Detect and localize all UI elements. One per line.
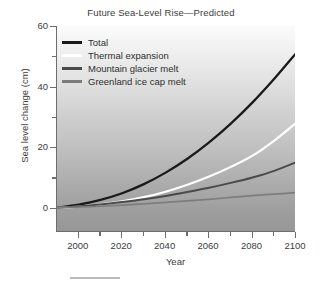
- x-tick-label: 2020: [111, 240, 132, 251]
- y-tick-minor: [52, 56, 56, 57]
- legend-swatch-mountain-glacier-melt: [62, 67, 82, 70]
- x-tick-major: [78, 232, 79, 238]
- y-tick-minor: [52, 177, 56, 178]
- footer-rule: [70, 277, 120, 279]
- y-tick-major: [50, 147, 56, 148]
- x-tick-minor: [143, 232, 144, 236]
- x-tick-major: [208, 232, 209, 238]
- x-tick-label: 2060: [198, 240, 219, 251]
- legend-swatch-greenland-ice-cap-melt: [62, 80, 82, 83]
- x-tick-label: 2080: [241, 240, 262, 251]
- y-tick-label: 0: [43, 202, 48, 213]
- legend-item-thermal-expansion: Thermal expansion: [62, 49, 186, 62]
- legend-label-mountain-glacier-melt: Mountain glacier melt: [88, 62, 178, 75]
- legend-item-total: Total: [62, 36, 186, 49]
- y-tick-label: 60: [37, 20, 48, 31]
- x-tick-minor: [99, 232, 100, 236]
- x-tick-label: 2000: [67, 240, 88, 251]
- y-tick-minor: [52, 117, 56, 118]
- legend-item-greenland-ice-cap-melt: Greenland ice cap melt: [62, 75, 186, 88]
- x-tick-label: 2040: [154, 240, 175, 251]
- legend-item-mountain-glacier-melt: Mountain glacier melt: [62, 62, 186, 75]
- y-tick-major: [50, 87, 56, 88]
- y-tick-major: [50, 208, 56, 209]
- y-tick-label: 20: [37, 141, 48, 152]
- legend-label-greenland-ice-cap-melt: Greenland ice cap melt: [88, 75, 186, 88]
- y-tick-label: 40: [37, 81, 48, 92]
- x-tick-major: [165, 232, 166, 238]
- x-tick-major: [121, 232, 122, 238]
- x-tick-minor: [186, 232, 187, 236]
- y-axis-label: Sea level change (cm): [19, 46, 30, 186]
- x-tick-major: [252, 232, 253, 238]
- legend-swatch-thermal-expansion: [62, 54, 82, 57]
- legend-label-thermal-expansion: Thermal expansion: [88, 49, 169, 62]
- x-tick-label: 2100: [284, 240, 305, 251]
- x-tick-minor: [230, 232, 231, 236]
- sea-level-rise-chart: Future Sea-Level Rise—Predicted Total Th…: [0, 0, 322, 285]
- y-tick-major: [50, 26, 56, 27]
- chart-title: Future Sea-Level Rise—Predicted: [0, 7, 322, 18]
- x-axis-label: Year: [56, 256, 295, 267]
- chart-legend: Total Thermal expansion Mountain glacier…: [62, 36, 186, 88]
- x-tick-major: [295, 232, 296, 238]
- legend-label-total: Total: [88, 36, 108, 49]
- x-tick-minor: [273, 232, 274, 236]
- legend-swatch-total: [62, 41, 82, 44]
